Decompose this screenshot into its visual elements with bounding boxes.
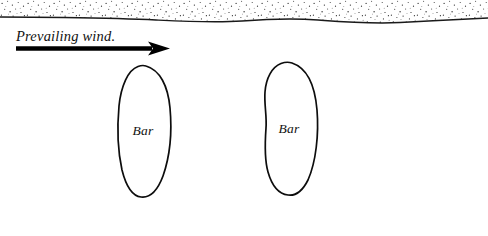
diagram-canvas: Prevailing wind. Bar Bar xyxy=(0,0,488,236)
bar-right: Bar xyxy=(265,52,337,210)
bar-right-label: Bar xyxy=(279,121,300,136)
shoreline-band xyxy=(0,0,488,26)
prevailing-wind-label: Prevailing wind. xyxy=(15,28,115,44)
bar-left-label: Bar xyxy=(133,123,154,138)
figure-root: Prevailing wind. Bar Bar xyxy=(0,0,488,236)
bar-left: Bar xyxy=(118,55,190,210)
